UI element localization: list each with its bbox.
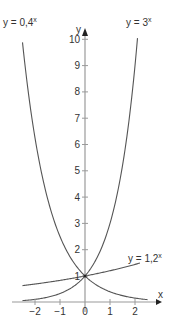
- curve-label: y = 3x: [126, 16, 152, 28]
- axes-group: [12, 28, 162, 312]
- y-tick-label: 7: [74, 113, 80, 124]
- x-tick-label: 2: [132, 306, 138, 317]
- y-tick-label: 3: [74, 218, 80, 229]
- y-axis-arrow-icon: [82, 28, 88, 36]
- y-tick-label: 8: [74, 86, 80, 97]
- y-tick-label: 6: [74, 139, 80, 150]
- x-tick-label: 0: [82, 306, 88, 317]
- curve-y-1-2-x: [23, 263, 141, 286]
- x-tick-label: −2: [29, 306, 41, 317]
- y-axis-label: y: [76, 24, 81, 35]
- x-tick-label: 1: [107, 306, 113, 317]
- curve-y-3-x: [23, 38, 138, 301]
- plot-area: −2−1012x12345678910yy = 3xy = 0,4xy = 1,…: [0, 0, 178, 335]
- y-tick-label: 9: [74, 60, 80, 71]
- intersection-point-dot: [83, 274, 86, 277]
- labels-group: −2−1012x12345678910yy = 3xy = 0,4xy = 1,…: [3, 16, 163, 317]
- curve-label: y = 1,2x: [128, 252, 162, 264]
- y-tick-label: 10: [69, 34, 81, 45]
- exponential-functions-chart: −2−1012x12345678910yy = 3xy = 0,4xy = 1,…: [0, 0, 178, 335]
- curve-label: y = 0,4x: [3, 16, 37, 28]
- y-tick-label: 5: [74, 165, 80, 176]
- x-tick-label: −1: [54, 306, 66, 317]
- x-axis-label: x: [158, 289, 163, 300]
- y-tick-label: 1: [74, 271, 80, 282]
- y-tick-label: 4: [74, 192, 80, 203]
- y-tick-label: 2: [74, 244, 80, 255]
